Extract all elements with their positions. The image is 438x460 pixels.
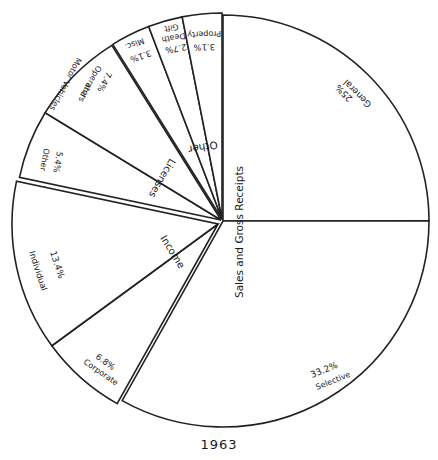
label-property-pct: 3.1% [193, 42, 215, 53]
label-property: Property [187, 29, 221, 39]
group-label-sales: Sales and Gross Receipts [233, 166, 245, 298]
pie-chart: 25% General 33.2% Selective Sales and Gr… [0, 0, 438, 460]
pie-slice-general [223, 15, 429, 221]
chart-caption-year: 1963 [0, 437, 438, 452]
